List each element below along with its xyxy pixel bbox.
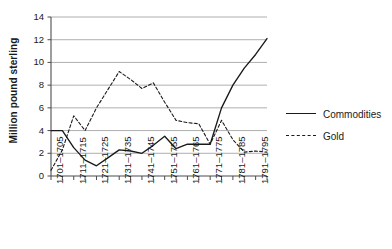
x-tick-label: 1791–1795 <box>260 136 270 184</box>
legend-key-solid-icon <box>286 109 316 119</box>
legend-key-dashed-icon <box>286 131 316 141</box>
legend-label-gold: Gold <box>323 131 344 142</box>
y-tick-label: 2 <box>24 148 44 158</box>
x-tick-label: 1751–1755 <box>169 136 179 184</box>
x-tick-label: 1741–1745 <box>146 136 156 184</box>
y-axis-title-text: Million pound sterling <box>8 37 19 143</box>
y-tick-label: 14 <box>24 12 44 22</box>
y-tick-label: 12 <box>24 35 44 45</box>
x-tick-label: 1711–1715 <box>78 137 88 184</box>
y-axis-title: Million pound sterling <box>2 0 24 180</box>
y-tick-label: 0 <box>24 171 44 181</box>
y-tick-label: 10 <box>24 57 44 67</box>
y-tick-label: 8 <box>24 80 44 90</box>
legend-item-commodities: Commodities <box>286 103 390 125</box>
y-tick-label: 4 <box>24 126 44 136</box>
y-tick-label: 6 <box>24 103 44 113</box>
chart-legend: Commodities Gold <box>286 103 390 147</box>
x-tick-label: 1731–1735 <box>123 136 133 184</box>
x-tick-label: 1771–1775 <box>214 136 224 184</box>
x-tick-label: 1781–1785 <box>237 136 247 184</box>
x-tick-label: 1721–1725 <box>100 136 110 184</box>
x-tick-label: 1761–1765 <box>191 136 201 184</box>
x-tick-label: 1701–1705 <box>55 136 65 184</box>
legend-item-gold: Gold <box>286 125 390 147</box>
chart-figure: Million pound sterling Commodities Gold … <box>0 0 392 249</box>
legend-label-commodities: Commodities <box>323 109 381 120</box>
